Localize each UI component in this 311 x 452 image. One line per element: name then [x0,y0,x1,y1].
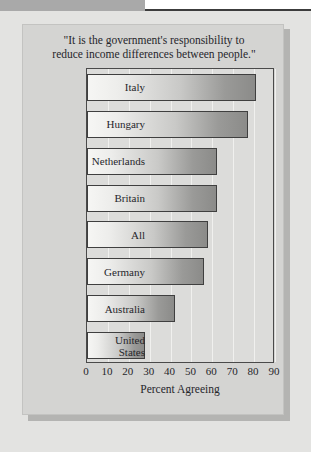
chart-title: "It is the government's responsibility t… [31,33,277,61]
category-label-line: United [45,334,145,346]
top-gray-band [0,0,145,11]
category-label-hungary: Hungary [45,118,145,130]
figure-page: "It is the government's responsibility t… [0,0,311,452]
category-label-line: Australia [45,303,145,315]
x-tick-90: 90 [262,365,286,377]
category-label-line: All [45,229,145,241]
x-axis-title: Percent Agreeing [86,383,274,395]
x-axis-tick-labels: 0102030405060708090 [86,365,274,381]
gridline [275,69,276,362]
category-label-line: Britain [45,192,145,204]
category-label-line: Germany [45,266,145,278]
chart-title-line-1: "It is the government's responsibility t… [31,33,277,47]
category-label-united-states: UnitedStates [45,334,145,358]
category-label-italy: Italy [45,81,145,93]
category-label-line: Netherlands [45,155,145,167]
category-label-australia: Australia [45,303,145,315]
category-label-line: Hungary [45,118,145,130]
top-white-band [145,0,311,9]
category-label-netherlands: Netherlands [45,155,145,167]
chart-figure-panel: "It is the government's responsibility t… [22,24,284,415]
category-label-britain: Britain [45,192,145,204]
plot-area: ItalyHungaryNetherlandsBritainAllGermany… [86,68,274,363]
category-label-line: States [45,346,145,358]
category-label-line: Italy [45,81,145,93]
chart-title-line-2: reduce income differences between people… [31,47,277,61]
category-axis-labels: ItalyHungaryNetherlandsBritainAllGermany… [45,69,145,364]
category-label-germany: Germany [45,266,145,278]
category-label-all: All [45,229,145,241]
